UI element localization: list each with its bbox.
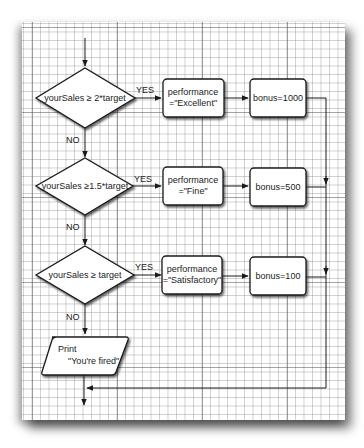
yes-label-3: YES: [135, 262, 153, 272]
decision-1-label: yourSales ≥ 2*target: [44, 93, 126, 103]
bonus-box-3: bonus=100: [250, 257, 306, 295]
bonus-box-1-label: bonus=1000: [253, 93, 303, 103]
decision-3-label: yourSales ≥ target: [49, 270, 122, 280]
yes-label-1: YES: [136, 85, 154, 95]
flowchart: yourSales ≥ 2*target YES performance ="E…: [0, 0, 364, 448]
bonus-box-2: bonus=500: [250, 168, 306, 206]
no-label-2: NO: [66, 222, 80, 232]
performance-box-2-line2: ="Fine": [178, 186, 207, 196]
decision-3: yourSales ≥ target: [36, 246, 134, 304]
performance-box-1-line2: ="Excellent": [169, 98, 217, 108]
no-label-1: NO: [66, 135, 80, 145]
performance-box-3-line1: performance: [167, 264, 218, 274]
performance-box-1: performance ="Excellent": [163, 79, 224, 117]
performance-box-2-line1: performance: [168, 175, 219, 185]
performance-box-3-line2: ="Satisfactory": [163, 275, 222, 285]
no-label-3: NO: [66, 312, 80, 322]
yes-label-2: YES: [134, 174, 152, 184]
decision-2-label: yourSales ≥1.5*target: [42, 181, 129, 191]
performance-box-1-line1: performance: [168, 87, 219, 97]
output-box-line1: Print: [58, 344, 77, 354]
output-box-line2: "You're fired": [68, 356, 119, 366]
bonus-box-1: bonus=1000: [250, 79, 306, 117]
performance-box-3: performance ="Satisfactory": [162, 256, 222, 294]
decision-1: yourSales ≥ 2*target: [36, 68, 135, 128]
output-box: Print "You're fired": [42, 337, 129, 375]
bonus-box-3-label: bonus=100: [256, 271, 301, 281]
performance-box-2: performance ="Fine": [163, 167, 223, 205]
decision-2: yourSales ≥1.5*target: [36, 158, 133, 215]
merge-line-right: [306, 98, 326, 388]
bonus-box-2-label: bonus=500: [256, 182, 301, 192]
